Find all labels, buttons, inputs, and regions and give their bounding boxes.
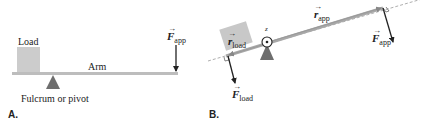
vector-arrow-icon: →	[233, 83, 241, 91]
fulcrum-label: Fulcrum or pivot	[21, 94, 89, 104]
z-axis-label: z	[265, 26, 268, 33]
vector-arrow-icon: →	[373, 27, 381, 35]
f-load-label: →Fload	[232, 89, 253, 103]
pivot-axis-dot	[266, 41, 269, 44]
f-load-arrow	[228, 56, 235, 83]
vector-arrow-icon: →	[168, 25, 176, 33]
arm-label: Arm	[88, 62, 106, 72]
vector-arrow-icon: →	[314, 3, 322, 11]
panel-b-letter: B.	[209, 110, 219, 120]
vector-arrow-icon: →	[228, 30, 236, 38]
load-box	[17, 47, 40, 72]
load-label: Load	[18, 37, 39, 47]
r-load-label: →rload	[228, 36, 246, 50]
panel-a-letter: A.	[8, 110, 18, 120]
fulcrum-triangle	[46, 75, 60, 89]
arm-beam	[12, 72, 178, 75]
lever-diagram	[0, 0, 425, 124]
r-app-label: →rapp	[314, 9, 330, 23]
f-app-label-a: →Fapp	[167, 31, 186, 45]
f-app-label-b: →Fapp	[372, 33, 391, 47]
